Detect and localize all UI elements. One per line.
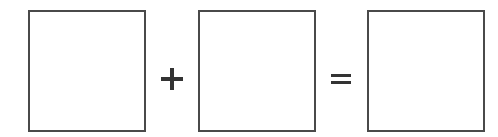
operand-box-2 bbox=[198, 10, 316, 132]
plus-icon-vertical bbox=[170, 68, 174, 90]
operand-box-2-value bbox=[200, 12, 201, 13]
operand-box-1-value bbox=[30, 12, 31, 13]
operand-box-1 bbox=[28, 10, 146, 132]
equals-icon-top bbox=[331, 74, 351, 77]
result-box-value bbox=[369, 12, 370, 13]
equals-icon-bottom bbox=[331, 81, 351, 84]
result-box bbox=[367, 10, 485, 132]
